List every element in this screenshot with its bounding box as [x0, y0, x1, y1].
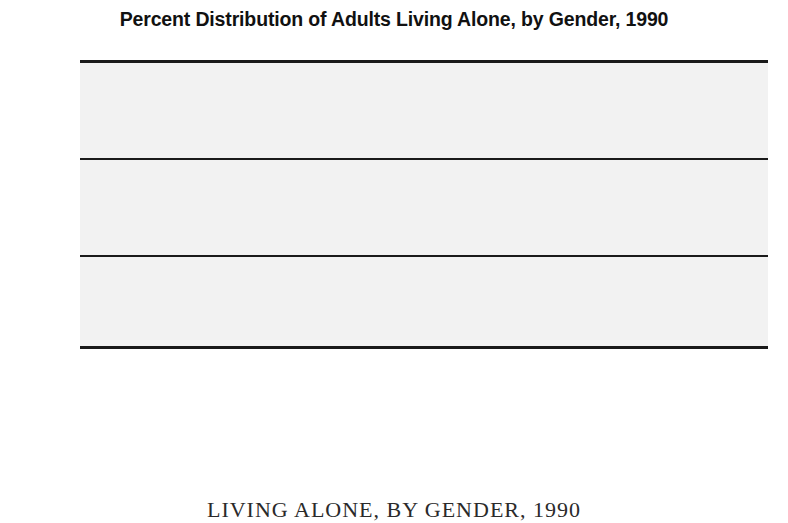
bars-layer	[80, 60, 768, 349]
x-axis	[80, 356, 768, 416]
figure-caption: LIVING ALONE, BY GENDER, 1990	[0, 497, 788, 523]
chart-title: Percent Distribution of Adults Living Al…	[0, 8, 788, 31]
